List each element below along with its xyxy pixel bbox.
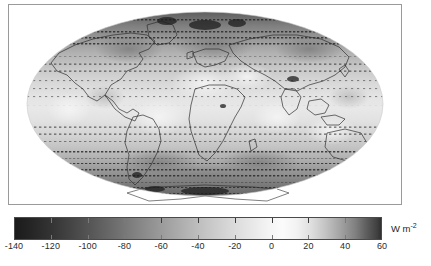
colorbar-tick-label: -120	[42, 241, 60, 251]
colorbar-tick-label: -20	[228, 241, 241, 251]
colorbar-tick	[308, 235, 309, 239]
unit-text: W m	[391, 223, 411, 234]
colorbar-tick	[51, 235, 52, 239]
colorbar-tick	[161, 218, 162, 223]
colorbar-tick-label: -40	[191, 241, 204, 251]
colorbar-tick	[235, 218, 236, 223]
colorbar-unit-label: W m-2	[391, 222, 417, 234]
colorbar-tick-label: -80	[118, 241, 131, 251]
colorbar-tick	[88, 235, 89, 239]
colorbar-tick-label: 20	[303, 241, 313, 251]
colorbar-tick	[198, 218, 199, 223]
colorbar-tick	[308, 218, 309, 223]
colorbar-tick	[124, 235, 125, 239]
colorbar-tick-label: 0	[269, 241, 274, 251]
colorbar-tick	[272, 218, 273, 223]
colorbar-tick-label: -60	[155, 241, 168, 251]
colorbar-tick	[161, 235, 162, 239]
colorbar-tick	[345, 235, 346, 239]
colorbar-tick	[88, 218, 89, 223]
colorbar-tick	[51, 218, 52, 223]
colorbar-tick	[124, 218, 125, 223]
colorbar-tick	[272, 235, 273, 239]
colorbar-tick-label: -140	[5, 241, 23, 251]
global-map	[9, 5, 401, 204]
colorbar: -140-120-100-80-60-40-200204060	[14, 217, 382, 240]
unit-exponent: -2	[411, 222, 417, 229]
colorbar-tick-label: 40	[340, 241, 350, 251]
colorbar-tick-label: 60	[377, 241, 387, 251]
colorbar-tick	[345, 218, 346, 223]
map-panel	[8, 4, 402, 205]
colorbar-tick-label: -100	[78, 241, 96, 251]
figure-root: -140-120-100-80-60-40-200204060 W m-2	[0, 0, 431, 266]
colorbar-tick-labels: -140-120-100-80-60-40-200204060	[14, 241, 382, 257]
colorbar-tick	[198, 235, 199, 239]
colorbar-tick	[235, 235, 236, 239]
